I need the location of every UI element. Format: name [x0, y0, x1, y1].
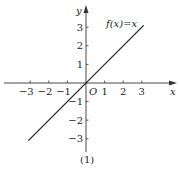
x-tick-label: 2	[120, 86, 126, 97]
y-tick-label: −2	[68, 115, 83, 126]
y-axis-arrow-icon	[84, 5, 89, 13]
y-tick-label: 2	[77, 40, 83, 51]
y-tick-label: 1	[77, 59, 83, 70]
y-tick-label: −3	[68, 133, 83, 144]
y-axis-label: y	[75, 5, 82, 16]
x-axis-label: x	[170, 86, 176, 97]
x-axis-arrow-icon	[169, 81, 177, 86]
origin-label: O	[89, 86, 97, 97]
x-tick-label: −2	[38, 86, 53, 97]
x-tick-label: 3	[139, 86, 145, 97]
function-graph: −3−2−1123 −3−2−1123 x y O f(x)=x (1)	[0, 0, 179, 174]
figure-caption: (1)	[80, 154, 94, 165]
y-tick-label: 3	[77, 22, 83, 33]
x-tick-label: 1	[101, 86, 107, 97]
x-tick-label: −3	[19, 86, 34, 97]
function-label: f(x)=x	[105, 18, 138, 29]
